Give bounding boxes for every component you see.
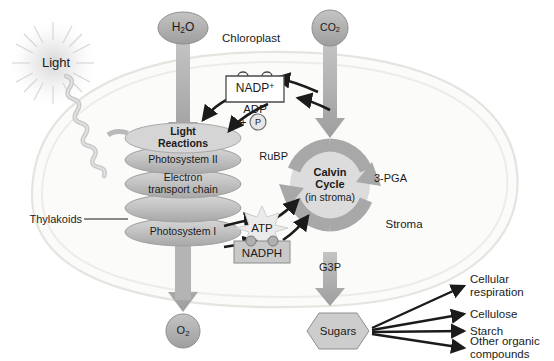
nadph-label: NADPH bbox=[242, 247, 282, 260]
atp-label: ATP bbox=[251, 222, 273, 235]
sugars-label: Sugars bbox=[320, 325, 356, 338]
calvin-cycle-label: CalvinCycle(in stroma) bbox=[305, 166, 355, 203]
light-label: Light bbox=[42, 56, 70, 71]
sugar-use-cellular-respiration: Cellularrespiration bbox=[470, 273, 524, 299]
stroma-label: Stroma bbox=[385, 218, 422, 231]
oxygen-label: O2 bbox=[177, 324, 190, 338]
electron-dot-icon bbox=[246, 236, 256, 246]
pga-label: 3-PGA bbox=[374, 172, 407, 184]
plus-sign: + bbox=[240, 116, 247, 129]
disc-label-photosystem-ii: Photosystem II bbox=[148, 154, 217, 166]
thylakoids-label: Thylakoids bbox=[29, 213, 82, 225]
chloroplast-label: Chloroplast bbox=[222, 32, 280, 45]
sugar-use-other-organic-compounds: Other organiccompounds bbox=[470, 335, 540, 361]
disc-label-electron-transport-chain: Electrontransport chain bbox=[148, 172, 217, 196]
disc-label-light-reactions: LightReactions bbox=[158, 126, 208, 150]
rubp-label: RuBP bbox=[259, 150, 288, 162]
co2-label: CO2 bbox=[320, 22, 340, 35]
electron-dot-icon bbox=[268, 236, 278, 246]
water-label: H2O bbox=[172, 21, 195, 35]
phosphate-label: P bbox=[255, 117, 261, 127]
sugar-use-cellulose: Cellulose bbox=[470, 308, 517, 321]
disc-label-photosystem-i: Photosystem I bbox=[150, 226, 217, 238]
nadp-plus-label: NADP+ bbox=[236, 82, 274, 96]
adp-label: ADP bbox=[243, 103, 267, 116]
g3p-label: G3P bbox=[319, 261, 341, 273]
